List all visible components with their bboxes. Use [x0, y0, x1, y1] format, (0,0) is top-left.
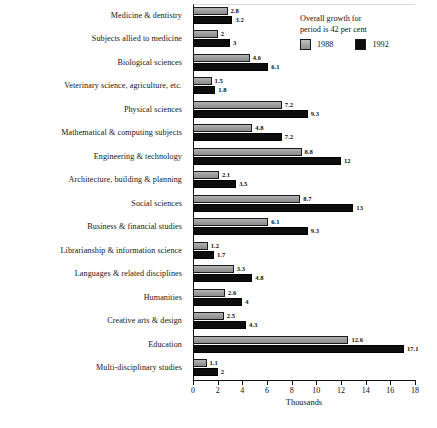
bar-value-1992: 1.7 [217, 251, 225, 259]
category-label: Engineering & technology [94, 152, 182, 161]
bar-value-1988: 4.8 [255, 124, 263, 132]
x-tick [415, 380, 416, 385]
bar-value-1992: 4.3 [249, 321, 257, 329]
bar-group: 7.29.3 [193, 101, 415, 119]
bar-1992 [193, 345, 404, 353]
bar-1988 [193, 218, 268, 226]
bar-group: 3.34.8 [193, 265, 415, 283]
bar-value-1992: 3.2 [235, 16, 243, 24]
bar-value-1988: 8.8 [305, 148, 313, 156]
category-label: Creative arts & design [107, 316, 182, 325]
bar-value-1988: 2.1 [222, 171, 230, 179]
category-label: Social sciences [131, 199, 182, 208]
bar-value-1992: 6.1 [271, 63, 279, 71]
category-label: Multi-disciplinary studies [96, 363, 182, 372]
bar-value-1992: 2 [221, 368, 224, 376]
x-axis-title: Thousands [193, 398, 415, 407]
bar-value-1992: 7.2 [285, 133, 293, 141]
category-label: Education [148, 340, 182, 349]
bar-value-1988: 2 [221, 30, 224, 38]
bar-value-1992: 4.8 [255, 274, 263, 282]
bar-1992 [193, 86, 215, 94]
bar-1988 [193, 312, 224, 320]
category-label: Architecture, building & planning [69, 175, 182, 184]
x-tick-label: 16 [386, 386, 394, 396]
legend-swatch-1988-icon [300, 39, 311, 50]
bar-group: 2.54.3 [193, 312, 415, 330]
x-tick-label: 8 [290, 386, 294, 396]
bar-1992 [193, 321, 246, 329]
category-label: Business & financial studies [87, 222, 182, 231]
x-tick-label: 18 [411, 386, 419, 396]
bar-group: 8.812 [193, 148, 415, 166]
legend-note-line2: period is 42 per cent [300, 25, 432, 36]
x-tick-label: 4 [240, 386, 244, 396]
bar-1988 [193, 77, 212, 85]
bar-1988 [193, 359, 207, 367]
bar-group: 2.64 [193, 289, 415, 307]
x-tick [292, 380, 293, 385]
bar-value-1988: 3.3 [237, 265, 245, 273]
bar-value-1992: 12 [344, 157, 351, 165]
chart-legend: Overall growth for period is 42 per cent… [300, 14, 432, 50]
legend-key-1988: 1988 [300, 39, 333, 50]
category-label: Languages & related disciplines [75, 269, 182, 278]
category-label: Veterinary science, agriculture, etc. [64, 81, 182, 90]
category-label: Librarianship & information science [61, 246, 183, 255]
bar-value-1992: 13 [356, 204, 363, 212]
legend-swatch-1992-icon [355, 39, 366, 50]
bar-value-1988: 1.2 [211, 242, 219, 250]
bar-group: 4.87.2 [193, 124, 415, 142]
legend-key-1992: 1992 [355, 39, 388, 50]
x-axis: Thousands 024681012141618 [193, 380, 415, 426]
bar-chart: Medicine & dentistrySubjects allied to m… [0, 0, 437, 428]
bar-1988 [193, 336, 348, 344]
bar-value-1988: 12.6 [351, 336, 363, 344]
bar-1988 [193, 242, 208, 250]
bar-value-1992: 9.3 [311, 227, 319, 235]
x-tick-label: 0 [191, 386, 195, 396]
bar-group: 1.51.8 [193, 77, 415, 95]
bar-1988 [193, 54, 250, 62]
bar-group: 12.617.1 [193, 336, 415, 354]
x-tick [218, 380, 219, 385]
bar-value-1988: 4.6 [253, 54, 261, 62]
x-tick [193, 380, 194, 385]
bar-1992 [193, 227, 308, 235]
bar-1992 [193, 180, 236, 188]
bar-1988 [193, 30, 218, 38]
x-tick [366, 380, 367, 385]
bar-1988 [193, 101, 282, 109]
bar-1992 [193, 204, 353, 212]
category-label: Humanities [144, 293, 182, 302]
bar-value-1988: 2.8 [231, 7, 239, 15]
bar-group: 4.66.1 [193, 54, 415, 72]
bar-1992 [193, 16, 232, 24]
plot-area: 2.83.2234.66.11.51.87.29.34.87.28.8122.1… [193, 4, 415, 380]
x-tick-label: 6 [265, 386, 269, 396]
category-label: Medicine & dentistry [111, 11, 182, 20]
bar-value-1992: 3.5 [239, 180, 247, 188]
bar-1988 [193, 171, 219, 179]
bar-group: 6.19.3 [193, 218, 415, 236]
bar-group: 1.12 [193, 359, 415, 377]
x-axis-line [193, 380, 415, 381]
bar-value-1992: 4 [245, 298, 248, 306]
bar-group: 1.21.7 [193, 242, 415, 260]
bar-value-1992: 9.3 [311, 110, 319, 118]
category-label: Biological sciences [117, 58, 182, 67]
x-tick [316, 380, 317, 385]
x-tick-label: 2 [216, 386, 220, 396]
x-tick [267, 380, 268, 385]
bar-1992 [193, 298, 242, 306]
bar-1992 [193, 133, 282, 141]
legend-label-1992: 1992 [372, 40, 388, 49]
bar-value-1988: 2.5 [227, 312, 235, 320]
x-tick [242, 380, 243, 385]
bar-group: 2.13.5 [193, 171, 415, 189]
bar-value-1992: 17.1 [407, 345, 419, 353]
bar-value-1988: 6.1 [271, 218, 279, 226]
bar-1992 [193, 368, 218, 376]
bar-1992 [193, 251, 214, 259]
bar-1992 [193, 274, 252, 282]
